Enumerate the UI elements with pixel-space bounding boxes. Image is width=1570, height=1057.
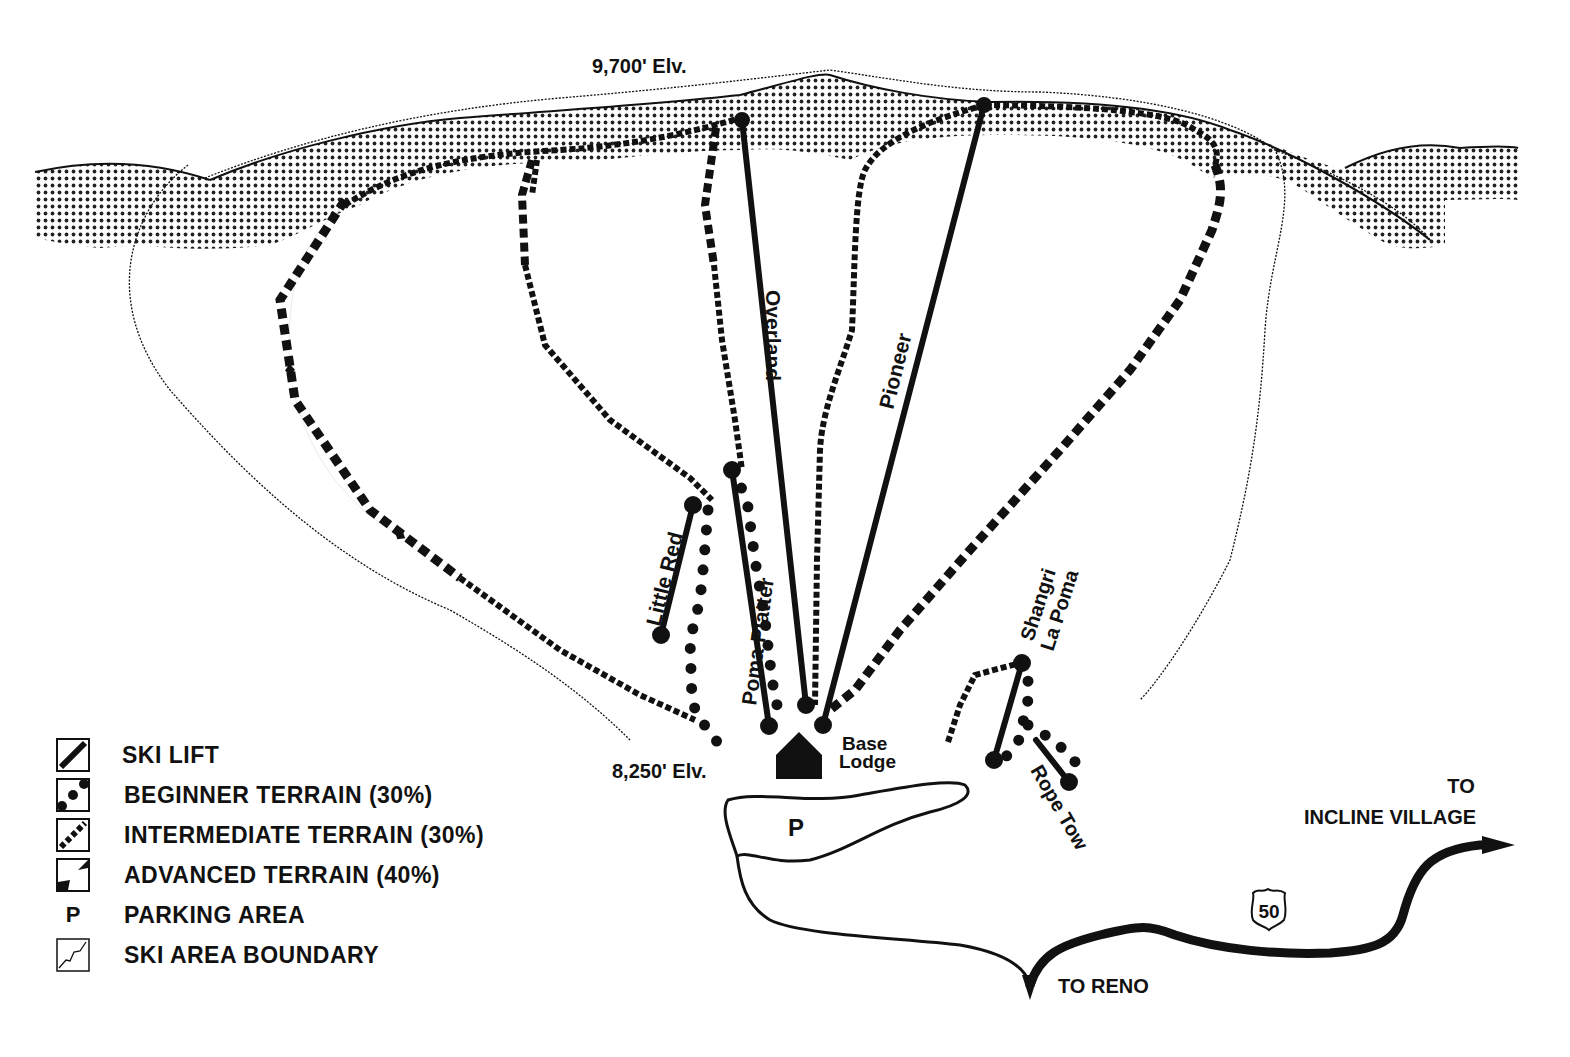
parking-marker: P bbox=[788, 814, 804, 841]
advanced-trail-center-west bbox=[522, 160, 532, 265]
beginner-terrain-icon bbox=[56, 778, 90, 812]
parking-icon: P bbox=[56, 898, 90, 932]
base-lodge-icon bbox=[776, 732, 822, 779]
highway-number: 50 bbox=[1258, 901, 1279, 922]
lift-label-overland: Overland bbox=[762, 290, 785, 381]
ski-lifts bbox=[655, 100, 1075, 788]
summit-elevation-label: 9,700' Elv. bbox=[592, 55, 686, 77]
legend-label: PARKING AREA bbox=[124, 902, 305, 929]
advanced-trail-west bbox=[280, 200, 460, 578]
boundary-icon bbox=[56, 938, 90, 972]
legend-item-boundary: SKI AREA BOUNDARY bbox=[56, 938, 90, 972]
road-label-incline-village: INCLINE VILLAGE bbox=[1304, 806, 1476, 828]
legend-item-parking: P PARKING AREA bbox=[56, 898, 90, 932]
legend-item-beginner: BEGINNER TERRAIN (30%) bbox=[56, 778, 90, 812]
legend-label: ADVANCED TERRAIN (40%) bbox=[124, 862, 440, 889]
advanced-terrain-icon bbox=[56, 858, 90, 892]
lift-label-little-red: Little Red bbox=[642, 530, 687, 628]
highway-shield-icon: 50 bbox=[1252, 889, 1286, 930]
legend-label: SKI LIFT bbox=[122, 742, 219, 769]
legend-item-advanced: ADVANCED TERRAIN (40%) bbox=[56, 858, 90, 892]
legend-item-ski-lift: SKI LIFT bbox=[56, 738, 90, 772]
legend-item-intermediate: INTERMEDIATE TERRAIN (30%) bbox=[56, 818, 90, 852]
ridge-shading bbox=[35, 74, 1518, 248]
legend-label: BEGINNER TERRAIN (30%) bbox=[124, 782, 433, 809]
arrow-to-incline-icon bbox=[1482, 836, 1515, 854]
arrow-to-reno-icon bbox=[1022, 975, 1038, 1000]
intermediate-trails bbox=[345, 105, 1217, 742]
legend-label: INTERMEDIATE TERRAIN (30%) bbox=[124, 822, 484, 849]
legend-label: SKI AREA BOUNDARY bbox=[124, 942, 379, 969]
ski-trail-map: 50 9,700' Elv. 8,250' Elv. Base Lodge P … bbox=[0, 0, 1570, 1057]
road-label-to: TO bbox=[1447, 775, 1474, 797]
base-elevation-label: 8,250' Elv. bbox=[612, 760, 706, 782]
advanced-trails bbox=[289, 205, 460, 575]
road-label-to-reno: TO RENO bbox=[1058, 975, 1149, 997]
parking-area bbox=[725, 783, 1030, 985]
intermediate-terrain-icon bbox=[56, 818, 90, 852]
ski-lift-icon bbox=[56, 738, 90, 772]
base-lodge-label-2: Lodge bbox=[839, 751, 896, 772]
